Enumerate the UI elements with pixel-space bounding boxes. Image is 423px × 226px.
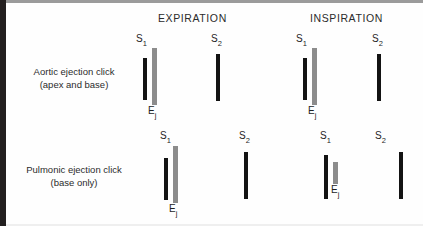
figure-top-border (6, 0, 423, 3)
bar-s2-aortic-inspiration (377, 54, 381, 101)
bar-s2-aortic-expiration (216, 54, 220, 101)
bar-ej-aortic-expiration (152, 48, 157, 105)
row-label-pulmonic-line1: Pulmonic ejection click (8, 164, 140, 177)
caption-s1-aortic-inspiration: S1 (296, 33, 307, 44)
figure-bottom-border (6, 224, 423, 226)
column-header-expiration: EXPIRATION (158, 12, 227, 24)
caption-s1-pulmonic-expiration: S1 (160, 130, 171, 141)
row-label-aortic: Aortic ejection click (apex and base) (8, 66, 140, 91)
caption-s2-pulmonic-expiration: S2 (239, 130, 250, 141)
caption-s2-aortic-expiration: S2 (211, 33, 222, 44)
row-label-aortic-line2: (apex and base) (8, 79, 140, 92)
ejection-click-figure: EXPIRATION INSPIRATION Aortic ejection c… (0, 0, 423, 226)
bar-s1-aortic-inspiration (303, 58, 307, 100)
row-label-aortic-line1: Aortic ejection click (8, 66, 140, 79)
bar-s1-pulmonic-inspiration (324, 155, 328, 199)
bar-ej-pulmonic-inspiration (333, 162, 338, 184)
bar-ej-pulmonic-expiration (173, 146, 178, 203)
caption-ej-aortic-inspiration: Ej (308, 105, 316, 116)
row-label-pulmonic-line2: (base only) (8, 177, 140, 190)
caption-s1-aortic-expiration: S1 (136, 33, 147, 44)
bar-s2-pulmonic-expiration (244, 152, 248, 199)
caption-ej-pulmonic-inspiration: Ej (331, 184, 339, 195)
caption-ej-pulmonic-expiration: Ej (169, 203, 177, 214)
bar-s1-aortic-expiration (143, 58, 147, 100)
bar-ej-aortic-inspiration (312, 48, 317, 105)
caption-s2-pulmonic-inspiration: S2 (375, 130, 386, 141)
bar-s1-pulmonic-expiration (164, 158, 168, 200)
row-label-pulmonic: Pulmonic ejection click (base only) (8, 164, 140, 189)
bar-s2-pulmonic-inspiration (399, 152, 403, 199)
caption-s1-pulmonic-inspiration: S1 (320, 130, 331, 141)
caption-ej-aortic-expiration: Ej (148, 105, 156, 116)
column-header-inspiration: INSPIRATION (310, 12, 383, 24)
caption-s2-aortic-inspiration: S2 (372, 33, 383, 44)
